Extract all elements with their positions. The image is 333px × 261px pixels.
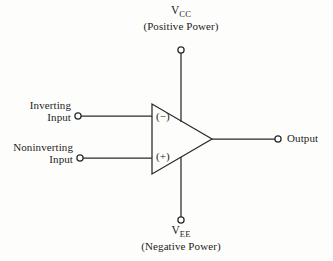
vee-subscript: EE <box>180 229 191 239</box>
vee-terminal-node <box>178 217 184 223</box>
vcc-caption: (Positive Power) <box>143 20 218 32</box>
noninverting-input-label-line2: Input <box>13 153 73 165</box>
opamp-schematic <box>0 0 333 261</box>
vcc-subscript: CC <box>179 9 191 19</box>
output-label: Output <box>287 132 318 144</box>
opamp-diagram-canvas: VCC (Positive Power) VEE (Negative Power… <box>0 0 333 261</box>
inverting-input-label: Inverting Input <box>30 99 71 124</box>
output-terminal-node <box>275 136 281 142</box>
noninverting-input-node <box>77 155 83 161</box>
inverting-input-label-line2: Input <box>30 111 71 123</box>
inverting-input-label-line1: Inverting <box>30 99 71 111</box>
vcc-terminal-node <box>178 47 184 53</box>
vcc-label: VCC <box>171 4 191 20</box>
noninverting-terminal-symbol: (+) <box>156 150 170 162</box>
noninverting-input-label: Noninverting Input <box>13 141 73 166</box>
vee-label: VEE <box>171 224 190 240</box>
inverting-terminal-symbol: (−) <box>156 110 170 122</box>
noninverting-input-label-line1: Noninverting <box>13 141 73 153</box>
inverting-input-node <box>75 113 81 119</box>
vee-caption: (Negative Power) <box>141 240 221 252</box>
